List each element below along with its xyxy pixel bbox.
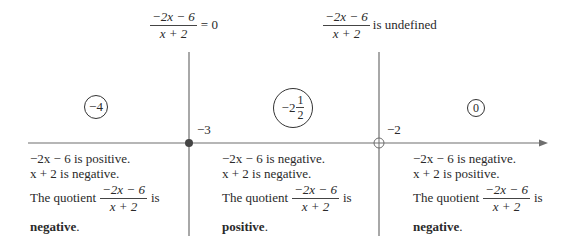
- quotient-prefix: The quotient: [413, 190, 479, 206]
- quotient-statement: The quotient −2x − 6 x + 2 is: [222, 183, 352, 213]
- result-sign: negative: [413, 219, 459, 234]
- fraction-denominator: x + 2: [302, 199, 330, 214]
- quotient-prefix: The quotient: [30, 190, 96, 206]
- test-value-minus-4: −4: [84, 95, 108, 119]
- fraction-numerator: −2x − 6: [483, 183, 530, 199]
- open-dot-icon: [374, 138, 384, 148]
- result-sign: negative: [30, 219, 76, 234]
- header-fraction-zero: −2x − 6 x + 2: [150, 10, 197, 40]
- quotient-prefix: The quotient: [222, 190, 288, 206]
- quotient-fraction: −2x − 6 x + 2: [483, 183, 530, 213]
- header-label-zero: −2x − 6 x + 2 = 0: [150, 10, 218, 40]
- quotient-result: positive.: [222, 219, 352, 234]
- fraction-numerator: −2x − 6: [150, 10, 197, 26]
- numerator-sign-text: −2x − 6 is positive.: [30, 151, 160, 166]
- region-left-explanation: −2x − 6 is positive. x + 2 is negative. …: [30, 151, 160, 234]
- fraction-numerator: −2x − 6: [292, 183, 339, 199]
- result-period: .: [459, 219, 462, 234]
- quotient-fraction: −2x − 6 x + 2: [100, 183, 147, 213]
- test-value-fraction: 1 2: [296, 94, 304, 121]
- critical-point-label-minus-2: −2: [387, 122, 401, 138]
- fraction-denominator: 2: [297, 108, 303, 122]
- quotient-statement: The quotient −2x − 6 x + 2 is: [413, 183, 543, 213]
- numerator-sign-text: −2x − 6 is negative.: [413, 151, 543, 166]
- fraction-numerator: −2x − 6: [323, 10, 370, 26]
- numerator-sign-text: −2x − 6 is negative.: [222, 151, 352, 166]
- test-value-whole: −2: [282, 100, 296, 116]
- denominator-sign-text: x + 2 is negative.: [222, 166, 352, 181]
- quotient-suffix: is: [151, 190, 160, 206]
- fraction-numerator: −2x − 6: [100, 183, 147, 199]
- test-value-label: −4: [89, 99, 103, 115]
- fraction-denominator: x + 2: [110, 199, 138, 214]
- denominator-sign-text: x + 2 is negative.: [30, 166, 160, 181]
- fraction-denominator: x + 2: [333, 26, 361, 41]
- quotient-result: negative.: [30, 219, 160, 234]
- quotient-result: negative.: [413, 219, 543, 234]
- denominator-sign-text: x + 2 is positive.: [413, 166, 543, 181]
- header-suffix: is undefined: [373, 17, 437, 33]
- fraction-numerator: 1: [296, 94, 304, 108]
- fraction-denominator: x + 2: [493, 199, 521, 214]
- header-label-undefined: −2x − 6 x + 2 is undefined: [323, 10, 437, 40]
- quotient-suffix: is: [343, 190, 352, 206]
- region-middle-explanation: −2x − 6 is negative. x + 2 is negative. …: [222, 151, 352, 234]
- quotient-statement: The quotient −2x − 6 x + 2 is: [30, 183, 160, 213]
- result-sign: positive: [222, 219, 265, 234]
- test-value-label: 0: [473, 101, 479, 116]
- header-suffix: = 0: [201, 17, 218, 33]
- critical-point-label-minus-3: −3: [197, 122, 211, 138]
- quotient-suffix: is: [534, 190, 543, 206]
- result-period: .: [265, 219, 268, 234]
- test-value-0: 0: [467, 99, 485, 117]
- region-right-explanation: −2x − 6 is negative. x + 2 is positive. …: [413, 151, 543, 234]
- arrow-right-icon: [539, 140, 548, 147]
- header-fraction-undefined: −2x − 6 x + 2: [323, 10, 370, 40]
- quotient-fraction: −2x − 6 x + 2: [292, 183, 339, 213]
- fraction-denominator: x + 2: [160, 26, 188, 41]
- result-period: .: [76, 219, 79, 234]
- test-value-minus-2-half: −2 1 2: [273, 88, 313, 128]
- closed-dot-icon: [185, 139, 193, 147]
